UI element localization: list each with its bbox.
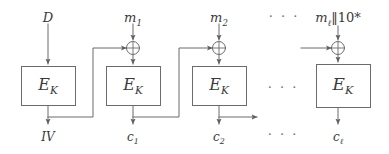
block-label-2: EK — [123, 77, 143, 96]
block-label-3: EK — [209, 77, 229, 96]
wire-feedback-1 — [48, 48, 127, 117]
ellipsis-middle: · · · — [268, 80, 299, 95]
input-label-d: D — [43, 11, 53, 24]
ellipsis-top: · · · — [269, 9, 300, 24]
output-label-c1: c1 — [127, 131, 139, 146]
output-label-c2: c2 — [213, 131, 225, 146]
ellipsis-bottom: · · · — [268, 127, 299, 142]
cipher-mode-diagram: D m1 m2 mℓ‖10* EK EK EK EK IV c1 c2 cℓ ·… — [0, 0, 389, 154]
input-label-ml-padded: mℓ‖10* — [315, 11, 360, 27]
input-label-m2: m2 — [210, 11, 228, 27]
wire-feedback-2 — [133, 48, 213, 117]
block-label-1: EK — [38, 77, 58, 96]
output-label-iv: IV — [41, 131, 54, 143]
block-label-4: EK — [333, 76, 354, 97]
output-label-cl: cℓ — [333, 131, 343, 146]
input-label-m1: m1 — [124, 11, 142, 27]
